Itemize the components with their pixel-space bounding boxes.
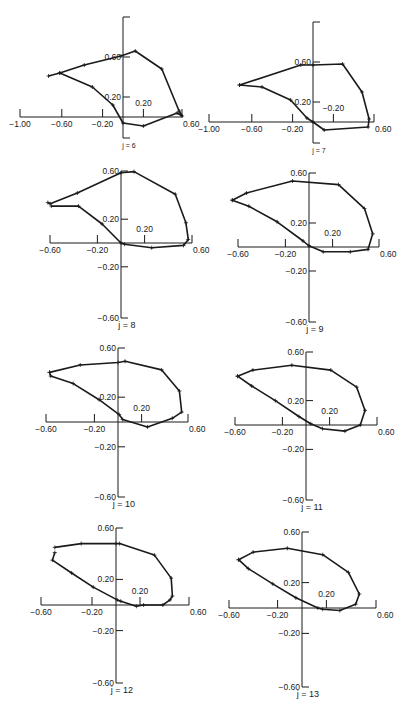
x-tick-label: −0.60 xyxy=(224,427,246,437)
phase-plot-panel: −0.60−0.200.200.600.600.20−0.20−0.60j = … xyxy=(35,343,206,509)
x-tick-label: −0.20 xyxy=(272,427,294,437)
x-tick-label: −0.20 xyxy=(81,607,103,617)
phase-plot-panel: −1.00−0.60−0.20−0.200.600.200.60j = 7 xyxy=(198,22,392,155)
y-tick-label: −0.20 xyxy=(92,626,114,636)
x-tick-label: 0.20 xyxy=(324,228,341,238)
plus-marker-icon xyxy=(290,179,294,183)
plus-marker-icon xyxy=(371,232,375,236)
plus-marker-icon xyxy=(49,374,53,378)
plus-marker-icon xyxy=(238,83,242,87)
y-tick-label: 0.20 xyxy=(97,574,114,584)
x-tick-label: −0.60 xyxy=(39,245,61,255)
plus-marker-icon xyxy=(118,542,122,546)
plus-marker-icon xyxy=(285,546,289,550)
phase-plot-panel: −0.60−0.200.200.600.600.20−0.20−0.60j = … xyxy=(224,347,395,512)
plus-marker-icon xyxy=(366,125,370,129)
panel-label: j = 10 xyxy=(112,499,135,509)
x-tick-label: −0.60 xyxy=(30,607,52,617)
x-tick-label: −0.20 xyxy=(92,119,114,129)
plus-marker-icon xyxy=(321,427,325,431)
panel-label: j = 6 xyxy=(121,142,136,150)
y-tick-label: −0.20 xyxy=(94,442,116,452)
x-tick-label: −0.20 xyxy=(87,245,109,255)
x-tick-label: 0.60 xyxy=(190,607,207,617)
plus-marker-icon xyxy=(366,247,370,251)
trajectory-line xyxy=(49,51,183,126)
x-tick-label: 0.60 xyxy=(375,124,392,134)
phase-plot-panel: −1.00−0.60−0.200.200.600.200.60j = 6 xyxy=(9,17,200,150)
x-tick-label: 0.60 xyxy=(380,249,397,259)
y-tick-label: 0.60 xyxy=(290,168,307,178)
x-tick-label: 0.20 xyxy=(135,98,152,108)
phase-plot-panel: −0.60−0.200.200.600.600.20−0.20−0.60j = … xyxy=(227,168,397,334)
x-tick-label: −0.60 xyxy=(227,249,249,259)
plus-marker-icon xyxy=(150,246,154,250)
y-tick-label: 0.20 xyxy=(290,218,307,228)
x-tick-label: −0.20 xyxy=(275,249,297,259)
plus-marker-icon xyxy=(79,542,83,546)
plus-marker-icon xyxy=(82,63,86,67)
panel-label: j = 8 xyxy=(117,320,135,330)
plus-marker-icon xyxy=(53,551,57,555)
phase-plot-panel: −0.60−0.200.200.600.600.20−0.20−0.60j = … xyxy=(39,166,210,330)
plus-marker-icon xyxy=(47,74,51,78)
panel-label: j = 13 xyxy=(296,689,319,699)
x-tick-label: −0.60 xyxy=(218,610,240,620)
x-tick-label: −1.00 xyxy=(198,124,220,134)
x-tick-label: −1.00 xyxy=(9,119,31,129)
panels-container: −1.00−0.60−0.200.200.600.200.60j = 6−1.0… xyxy=(9,17,397,699)
x-tick-label: −0.20 xyxy=(323,103,345,113)
panel-label: j = 9 xyxy=(305,324,323,334)
x-tick-label: −0.20 xyxy=(84,424,106,434)
plus-marker-icon xyxy=(141,124,145,128)
y-tick-label: 0.20 xyxy=(287,396,304,406)
panel-label: j = 12 xyxy=(110,685,133,695)
plus-marker-icon xyxy=(53,545,57,549)
plus-marker-icon xyxy=(311,63,315,67)
x-tick-label: 0.20 xyxy=(321,406,338,416)
phase-plane-figure: −1.00−0.60−0.200.200.600.200.60j = 6−1.0… xyxy=(0,0,404,722)
x-tick-label: 0.60 xyxy=(377,610,394,620)
plus-marker-icon xyxy=(114,542,118,546)
x-tick-label: −0.20 xyxy=(282,124,304,134)
plus-marker-icon xyxy=(119,599,123,603)
x-tick-label: 0.20 xyxy=(132,586,149,596)
plus-marker-icon xyxy=(348,250,352,254)
phase-plot-panel: −0.60−0.200.200.600.600.20−0.20−0.60j = … xyxy=(30,523,207,695)
y-tick-label: −0.60 xyxy=(285,317,307,327)
x-tick-label: 0.60 xyxy=(189,424,206,434)
y-tick-label: 0.60 xyxy=(97,523,114,533)
x-tick-label: −0.60 xyxy=(35,424,57,434)
x-tick-label: −0.60 xyxy=(51,119,73,129)
y-tick-label: −0.60 xyxy=(97,313,119,323)
y-tick-label: 0.20 xyxy=(99,392,116,402)
plus-marker-icon xyxy=(48,370,52,374)
panel-label: j = 11 xyxy=(300,502,323,512)
x-tick-label: 0.20 xyxy=(133,403,150,413)
y-tick-label: 0.60 xyxy=(283,527,300,537)
plus-marker-icon xyxy=(142,603,146,607)
y-tick-label: −0.20 xyxy=(278,628,300,638)
y-tick-label: 0.60 xyxy=(99,343,116,353)
plus-marker-icon xyxy=(116,360,120,364)
plus-marker-icon xyxy=(123,359,127,363)
plus-marker-icon xyxy=(184,221,188,225)
phase-plot-panel: −0.60−0.200.200.600.600.20−0.20−0.60j = … xyxy=(218,527,394,699)
y-tick-label: 0.20 xyxy=(283,578,300,588)
panel-label: j = 7 xyxy=(311,147,326,155)
x-tick-label: −0.20 xyxy=(267,610,289,620)
trajectory-line xyxy=(48,172,189,248)
x-tick-label: −0.60 xyxy=(241,124,263,134)
x-tick-label: 0.20 xyxy=(136,224,153,234)
y-tick-label: −0.20 xyxy=(285,266,307,276)
y-tick-label: −0.20 xyxy=(97,262,119,272)
plus-marker-icon xyxy=(146,425,150,429)
y-tick-label: 0.20 xyxy=(102,214,119,224)
x-tick-label: 0.60 xyxy=(193,245,210,255)
plus-marker-icon xyxy=(367,117,371,121)
y-tick-label: −0.20 xyxy=(282,444,304,454)
plus-marker-icon xyxy=(290,363,294,367)
y-tick-label: 0.20 xyxy=(294,97,311,107)
y-tick-label: 0.60 xyxy=(287,347,304,357)
x-tick-label: 0.20 xyxy=(318,589,335,599)
